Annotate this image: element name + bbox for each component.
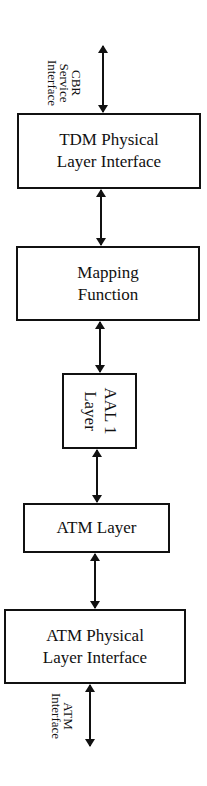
atm-physical-layer-label: ATM Physical Layer Interface [43,625,147,669]
tdm-physical-layer-label: TDM Physical Layer Interface [57,129,161,173]
atm-layer-box: ATM Layer [23,503,170,553]
aal1-layer-box: AAL 1 Layer [62,373,137,449]
tdm-physical-layer-box: TDM Physical Layer Interface [17,113,201,189]
cbr-service-interface-label: CBR Service Interface [44,52,82,114]
atm-layer-label: ATM Layer [57,517,137,539]
mapping-function-box: Mapping Function [16,246,200,321]
aal1-layer-label: AAL 1 Layer [80,387,120,434]
atm-physical-layer-box: ATM Physical Layer Interface [4,609,186,684]
atm-interface-label: ATM Interface [48,687,74,745]
mapping-function-label: Mapping Function [77,262,138,306]
